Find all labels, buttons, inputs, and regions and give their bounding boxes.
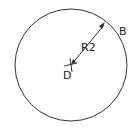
point-d-label: D (63, 69, 71, 82)
radius-label: R2 (81, 41, 96, 54)
geometry-diagram: R2 B D (0, 0, 137, 128)
point-b-label: B (119, 25, 127, 38)
